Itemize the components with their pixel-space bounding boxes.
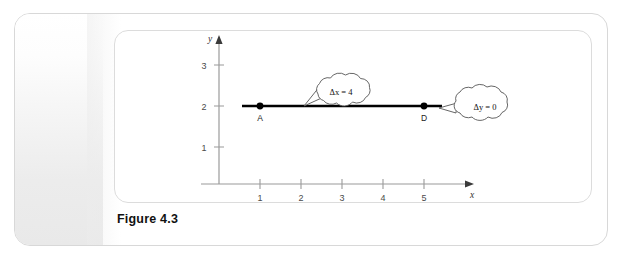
figure-caption: Figure 4.3 [117, 212, 178, 226]
data-point-d: D [421, 103, 428, 123]
x-tick-label: 5 [421, 193, 426, 203]
data-point-a: A [257, 103, 264, 123]
y-axis-label: y [207, 34, 213, 44]
callout-delta-x-text: Δx = 4 [329, 87, 353, 97]
y-axis: y 3 2 1 [201, 34, 224, 184]
coordinate-plot: y 3 2 1 x 1 2 3 4 5 [15, 14, 608, 246]
x-tick-label: 4 [380, 193, 385, 203]
callout-delta-y: Δy = 0 [439, 84, 508, 120]
callout-delta-y-text: Δy = 0 [473, 102, 496, 112]
point-label-a: A [257, 113, 263, 123]
figure-page-frame: y 3 2 1 x 1 2 3 4 5 [14, 13, 608, 246]
x-tick-label: 2 [298, 193, 303, 203]
callout-delta-x: Δx = 4 [304, 73, 370, 106]
x-axis-label: x [469, 190, 475, 200]
x-tick-label: 3 [339, 193, 344, 203]
x-tick-label: 1 [257, 193, 262, 203]
y-tick-label: 1 [201, 143, 206, 153]
y-tick-label: 2 [201, 102, 206, 112]
x-axis: x 1 2 3 4 5 [201, 179, 475, 203]
y-tick-label: 3 [201, 61, 206, 71]
point-label-d: D [421, 113, 427, 123]
